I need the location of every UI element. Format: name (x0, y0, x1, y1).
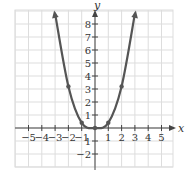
data-point (106, 121, 110, 125)
y-tick-label: 5 (85, 58, 91, 69)
y-tick-label: 8 (85, 19, 91, 30)
y-tick-label: 6 (85, 45, 91, 56)
y-tick-label: 2 (85, 97, 91, 108)
x-tick-label: 2 (118, 132, 124, 143)
y-tick-label: 4 (85, 71, 91, 82)
x-tick-label: 1 (105, 132, 111, 143)
axes (15, 10, 176, 170)
data-point (93, 126, 97, 130)
x-tick-label: 3 (132, 132, 138, 143)
y-tick-label: 1 (85, 110, 91, 121)
data-point (119, 84, 123, 88)
data-point (80, 121, 84, 125)
y-tick-label: 7 (85, 32, 91, 43)
x-tick-label: 4 (145, 132, 151, 143)
parabola-graph: −5−4−3−2−112345−2112345678 x y (0, 0, 189, 177)
y-tick-label: 1 (85, 136, 91, 147)
y-axis-label: y (93, 0, 101, 12)
y-tick-label: 3 (85, 84, 91, 95)
y-tick-label: −2 (76, 149, 91, 160)
data-point (66, 84, 70, 88)
x-tick-label: 5 (158, 132, 164, 143)
x-axis-label: x (178, 122, 185, 135)
